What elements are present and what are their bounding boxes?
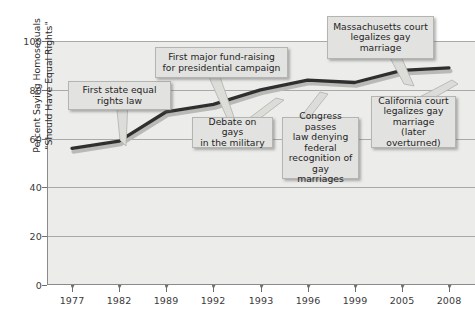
y-tick-label-40: 40 (30, 182, 43, 193)
callout-first-major-fund-raising[interactable]: First major fund-raising for presidentia… (155, 47, 288, 78)
y-tick-label-80: 80 (30, 85, 43, 96)
x-tick-label-2008: 2008 (437, 295, 462, 306)
x-tick-label-1993: 1993 (249, 295, 274, 306)
callout-massachusetts-court[interactable]: Massachusetts court legalizes gay marria… (327, 16, 434, 59)
x-tick-mark-1993 (261, 287, 262, 292)
x-tick-label-1982: 1982 (107, 295, 132, 306)
x-tick-mark-1992 (213, 287, 214, 292)
y-tick-label-60: 60 (30, 134, 43, 145)
y-tick-label-0: 0 (36, 280, 42, 291)
y-tick-label-100: 100 (23, 36, 42, 47)
x-tick-label-1977: 1977 (60, 295, 85, 306)
x-tick-label-1989: 1989 (154, 295, 179, 306)
x-tick-mark-2008 (449, 287, 450, 292)
chart-container: Percent Saying Homosexuals "Should Have … (0, 0, 475, 312)
y-tick-mark-0 (42, 285, 47, 286)
callout-first-state-equal-rights-law[interactable]: First state equal rights law (68, 81, 171, 110)
callout-congress-passes-law[interactable]: Congress passes law denying federal reco… (282, 117, 359, 179)
x-tick-mark-1996 (308, 287, 309, 292)
x-tick-label-1999: 1999 (343, 295, 368, 306)
callout-california-court[interactable]: California court legalizes gay marriage … (371, 96, 456, 148)
x-tick-label-1992: 1992 (201, 295, 226, 306)
x-tick-mark-1982 (119, 287, 120, 292)
callout-debate-on-gays-in-the-military[interactable]: Debate on gays in the military (192, 117, 273, 148)
x-tick-label-1996: 1996 (296, 295, 321, 306)
x-tick-mark-1977 (72, 287, 73, 292)
y-tick-label-20: 20 (30, 231, 43, 242)
x-tick-label-2005: 2005 (390, 295, 415, 306)
x-tick-mark-1999 (355, 287, 356, 292)
x-tick-mark-1989 (166, 287, 167, 292)
x-tick-mark-2005 (402, 287, 403, 292)
